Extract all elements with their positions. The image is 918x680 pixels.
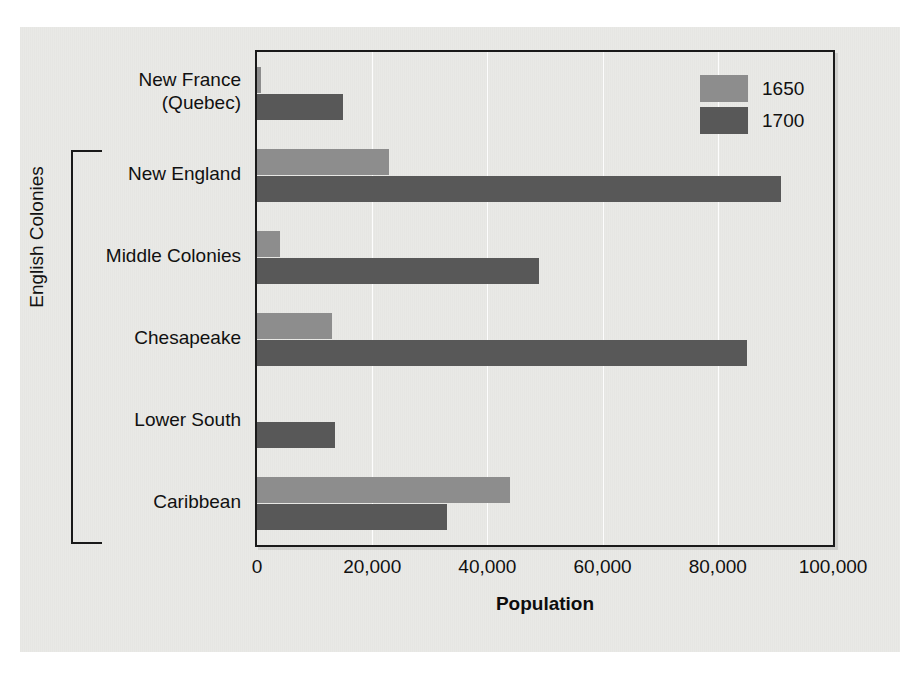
- bar-1700-new-france-quebec: [257, 94, 343, 120]
- english-colonies-bracket: [71, 150, 73, 544]
- english-colonies-bracket-label: English Colonies: [26, 127, 48, 347]
- x-axis-title: Population: [255, 593, 835, 615]
- category-label-new-england: New England: [95, 162, 241, 185]
- bar-1650-chesapeake: [257, 313, 332, 339]
- category-label-line: Chesapeake: [95, 326, 241, 349]
- legend-entry-1700: 1700: [700, 106, 804, 135]
- bar-1650-new-england: [257, 149, 389, 175]
- x-tick-label: 20,000: [343, 556, 401, 578]
- bar-1700-caribbean: [257, 504, 447, 530]
- bar-1700-chesapeake: [257, 340, 747, 366]
- population-bar-chart-figure: English Colonies New France(Quebec)New E…: [0, 0, 918, 680]
- category-label-line: Middle Colonies: [95, 244, 241, 267]
- category-label-line: New France: [95, 68, 241, 91]
- legend-label-1650: 1650: [762, 78, 804, 100]
- bar-1700-new-england: [257, 176, 781, 202]
- category-label-caribbean: Caribbean: [95, 490, 241, 513]
- category-label-chesapeake: Chesapeake: [95, 326, 241, 349]
- category-label-new-france-quebec: New France(Quebec): [95, 68, 241, 114]
- legend-entry-1650: 1650: [700, 74, 804, 103]
- gridline: [603, 52, 604, 545]
- bar-1650-new-france-quebec: [257, 67, 261, 93]
- category-label-line: New England: [95, 162, 241, 185]
- english-colonies-bracket-top-tick: [71, 150, 102, 152]
- bar-1700-lower-south: [257, 422, 335, 448]
- bar-1700-middle-colonies: [257, 258, 539, 284]
- english-colonies-bracket-bottom-tick: [71, 542, 102, 544]
- category-label-lower-south: Lower South: [95, 408, 241, 431]
- x-tick-label: 60,000: [574, 556, 632, 578]
- category-label-line: Lower South: [95, 408, 241, 431]
- legend-swatch-1650: [700, 75, 748, 102]
- bar-1650-caribbean: [257, 477, 510, 503]
- x-tick-label: 0: [252, 556, 263, 578]
- legend-swatch-1700: [700, 107, 748, 134]
- category-label-middle-colonies: Middle Colonies: [95, 244, 241, 267]
- x-tick-label: 80,000: [689, 556, 747, 578]
- chart-legend: 1650 1700: [700, 74, 804, 138]
- gridline: [487, 52, 488, 545]
- category-label-line: Caribbean: [95, 490, 241, 513]
- bar-1650-middle-colonies: [257, 231, 280, 257]
- gridline: [372, 52, 373, 545]
- x-tick-label: 100,000: [799, 556, 868, 578]
- legend-label-1700: 1700: [762, 110, 804, 132]
- x-tick-label: 40,000: [458, 556, 516, 578]
- category-label-line: (Quebec): [95, 91, 241, 114]
